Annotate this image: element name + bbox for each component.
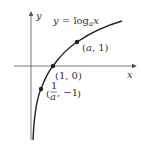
svg-text:a: a: [50, 91, 56, 102]
point-inv-a: [39, 87, 43, 91]
svg-text:, −1: , −1: [57, 87, 78, 98]
point-1-0: [51, 64, 55, 68]
point-a-1-label: (a, 1): [82, 42, 109, 53]
function-label: y = logax: [52, 15, 99, 28]
point-1-0-label: (1, 0): [55, 70, 82, 81]
log-graph: y x y = logax (a, 1) (1, 0) ( 1 a , −1 ): [0, 0, 141, 145]
svg-text:): ): [77, 88, 81, 99]
point-inv-a-label: ( 1 a , −1 ): [46, 80, 81, 102]
x-axis-label: x: [127, 69, 133, 80]
point-a-1: [75, 40, 79, 44]
y-axis-label: y: [35, 10, 42, 21]
